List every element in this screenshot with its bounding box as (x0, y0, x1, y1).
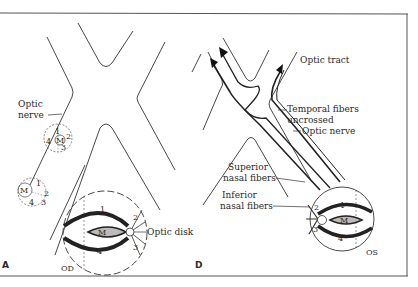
svg-text:4: 4 (46, 137, 51, 146)
label-temporal-fibers: Temporal fibers uncrossed (278, 104, 359, 125)
label-optic-nerve-a: Optic nerve (18, 99, 62, 120)
svg-text:1: 1 (100, 205, 105, 214)
optic-chiasm-figure: Optic nerve 1 2 3 4 M M 1 2 3 4 1 2 (0, 0, 418, 287)
svg-text:Inferior: Inferior (222, 190, 258, 200)
label-inferior-nasal: Inferior nasal fibers (220, 190, 310, 211)
svg-text:1: 1 (340, 201, 345, 210)
label-superior-nasal: Superior nasal fibers (223, 162, 305, 183)
label-optic-disk: Optic disk (134, 227, 194, 237)
svg-text:3: 3 (41, 198, 46, 207)
svg-text:Optic nerve: Optic nerve (302, 126, 355, 136)
retina-os: 1 2 3 4 M (306, 187, 374, 251)
svg-text:1: 1 (55, 127, 60, 136)
svg-text:nasal fibers: nasal fibers (220, 201, 273, 211)
label-optic-nerve-d: Optic nerve (293, 126, 355, 136)
panel-label-d: D (195, 260, 202, 270)
svg-text:4: 4 (29, 198, 34, 207)
svg-text:1: 1 (36, 179, 41, 188)
label-optic-tract: Optic tract (300, 55, 350, 65)
svg-text:Optic disk: Optic disk (147, 227, 194, 237)
nerve-cross-section-upper: 1 2 3 4 M (44, 124, 72, 152)
svg-text:nasal fibers: nasal fibers (223, 173, 276, 183)
arrowheads (210, 47, 283, 74)
svg-text:3: 3 (133, 243, 138, 252)
svg-text:M: M (56, 136, 64, 145)
eye-label-od: OD (61, 264, 74, 273)
svg-text:uncrossed: uncrossed (287, 115, 334, 125)
svg-text:2: 2 (314, 203, 319, 212)
panel-label-a: A (2, 260, 9, 270)
nerve-cross-section-lower: M 1 2 3 4 (18, 178, 49, 207)
svg-text:M: M (340, 216, 348, 225)
svg-text:2: 2 (44, 189, 49, 198)
svg-text:Superior: Superior (228, 162, 269, 172)
eye-label-os: OS (366, 248, 378, 257)
svg-text:nerve: nerve (18, 110, 44, 120)
svg-text:Temporal fibers: Temporal fibers (287, 104, 359, 114)
svg-text:2: 2 (133, 213, 138, 222)
svg-text:Optic: Optic (18, 99, 43, 109)
svg-text:2: 2 (66, 132, 71, 141)
svg-text:4: 4 (338, 234, 343, 243)
retina-od: 1 2 3 4 M (63, 191, 147, 275)
svg-text:3: 3 (313, 225, 318, 234)
svg-text:M: M (98, 228, 106, 237)
svg-text:M: M (20, 186, 28, 195)
svg-text:4: 4 (97, 247, 102, 256)
